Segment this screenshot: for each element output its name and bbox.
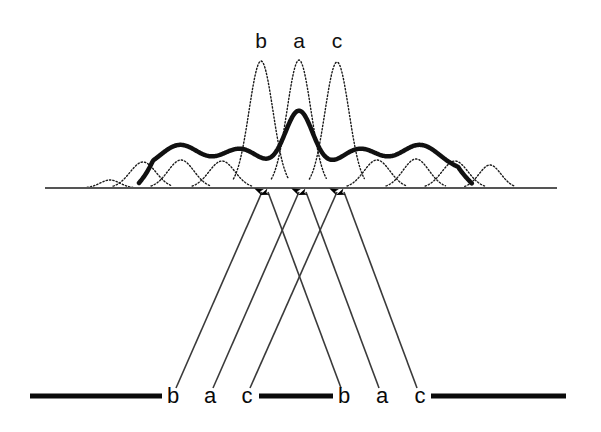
top-label-c-2: c (332, 29, 343, 52)
dotted-lobe-3 (192, 161, 251, 186)
arrow-a1 (213, 192, 299, 388)
dotted-lobe-7 (347, 160, 406, 186)
bottom-label-b-3: b (338, 383, 350, 408)
dotted-lobe-8 (386, 159, 445, 186)
bottom-label-b-0: b (167, 383, 179, 408)
bottom-label-a-4: a (376, 383, 389, 408)
top-label-group: bac (255, 29, 342, 52)
bottom-label-c-5: c (415, 383, 426, 408)
solid-envelope-curve (139, 111, 472, 184)
arrow-group (176, 192, 417, 388)
arrow-b2 (268, 192, 341, 388)
arrow-b1 (176, 192, 262, 388)
arrow-c1 (250, 192, 337, 388)
diagram-figure: bac bacbac (0, 0, 601, 432)
diagram-canvas: bac bacbac (0, 0, 601, 432)
dotted-lobe-0 (87, 180, 133, 187)
dotted-lobe-1 (113, 162, 172, 186)
solid-envelope-path (139, 111, 472, 184)
arrow-a2 (306, 192, 379, 388)
top-label-a-1: a (293, 29, 305, 52)
top-label-b-0: b (255, 29, 267, 52)
bottom-label-a-1: a (204, 383, 217, 408)
dotted-lobe-6 (309, 62, 364, 179)
dotted-lobe-2 (151, 160, 210, 186)
bottom-label-c-2: c (242, 383, 253, 408)
arrow-c2 (344, 192, 417, 388)
dotted-lobe-5 (271, 60, 326, 179)
dotted-lobe-4 (233, 61, 288, 179)
